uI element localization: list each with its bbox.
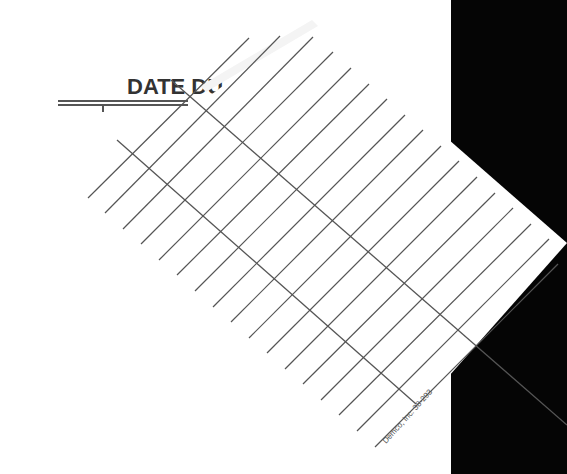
date-due-card: Demco, Inc. 38-293 bbox=[0, 0, 567, 474]
card-paper bbox=[74, 20, 567, 456]
